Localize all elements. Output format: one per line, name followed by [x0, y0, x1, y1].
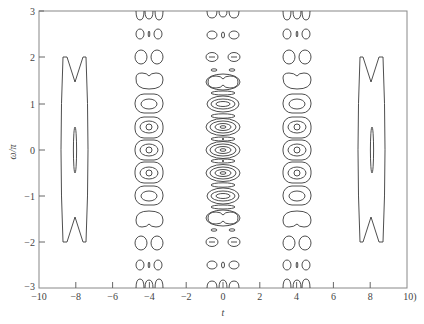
x-tick-label: 2	[257, 291, 262, 302]
outer-lobe-left	[61, 57, 88, 242]
y-tick-label: 1	[30, 99, 35, 110]
contour-chart: 3 2 1 0 −1 −2 −3 ω/π −10 −8 −6 −4 −2 0 2…	[0, 0, 424, 324]
x-tick-label: 10)	[403, 291, 416, 303]
x-tick-label: −4	[144, 291, 155, 302]
x-tick-label: 6	[331, 291, 336, 302]
cross-term-right	[283, 11, 311, 288]
y-tick-label: 3	[30, 6, 35, 17]
x-tick-label: 4	[294, 291, 299, 302]
cross-term-left	[135, 11, 163, 288]
y-tick-label: 2	[30, 52, 35, 63]
plot-frame	[39, 11, 407, 288]
x-tick-label: 0	[221, 291, 226, 302]
central-interference	[206, 11, 240, 288]
y-tick-label: 0	[30, 145, 35, 156]
x-tick-label: −6	[107, 291, 118, 302]
outer-lobe-right	[358, 57, 385, 242]
x-tick-label: −8	[70, 291, 81, 302]
y-tick-label: −2	[24, 237, 35, 248]
x-tick-label: 8	[368, 291, 373, 302]
x-tick-label: −2	[181, 291, 192, 302]
x-tick-label: −10	[31, 291, 47, 302]
x-axis: −10 −8 −6 −4 −2 0 2 4 6 8 10) t	[31, 282, 416, 318]
y-tick-label: −1	[24, 191, 35, 202]
y-axis-label: ω/π	[7, 144, 18, 160]
x-axis-label: t	[222, 307, 225, 318]
